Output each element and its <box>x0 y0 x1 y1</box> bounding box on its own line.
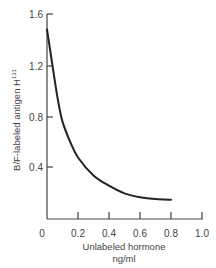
y-axis-title-text: B/F-labeled antigen H <box>11 79 22 171</box>
x-tick-label: 0.4 <box>102 228 116 239</box>
y-axis-title-superscript: 131 <box>11 68 17 79</box>
x-tick-label: 1.0 <box>195 228 209 239</box>
chart: 1.6 1.2 0.8 0.4 0 0.2 0.4 0.6 0.8 1.0 Un… <box>0 0 216 268</box>
x-tick-label: 0.2 <box>71 228 85 239</box>
y-axis-title: B/F-labeled antigen H131 <box>11 68 22 171</box>
y-tick-label: 1.2 <box>29 61 43 72</box>
y-tick-label: 1.6 <box>29 9 43 20</box>
y-tick-label: 0.4 <box>29 162 43 173</box>
x-axis-title: Unlabeled hormone <box>83 241 166 252</box>
x-tick-label: 0 <box>39 228 45 239</box>
series-line <box>47 29 171 199</box>
x-axis: 0 0.2 0.4 0.6 0.8 1.0 <box>39 212 209 239</box>
x-tick-label: 0.6 <box>133 228 147 239</box>
y-tick-label: 0.8 <box>29 112 43 123</box>
x-tick-label: 0.8 <box>164 228 178 239</box>
x-axis-unit: ng/ml <box>112 253 135 264</box>
